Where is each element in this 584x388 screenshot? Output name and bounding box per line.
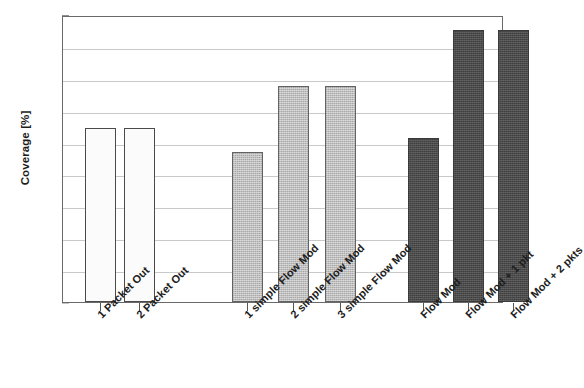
gridline: [63, 49, 502, 50]
gridline: [63, 81, 502, 82]
bar: [85, 128, 116, 302]
bar: [453, 30, 484, 302]
plot-area: [62, 16, 503, 303]
bar: [408, 138, 439, 302]
bar: [232, 152, 263, 302]
y-axis-title: Coverage [%]: [19, 78, 31, 218]
